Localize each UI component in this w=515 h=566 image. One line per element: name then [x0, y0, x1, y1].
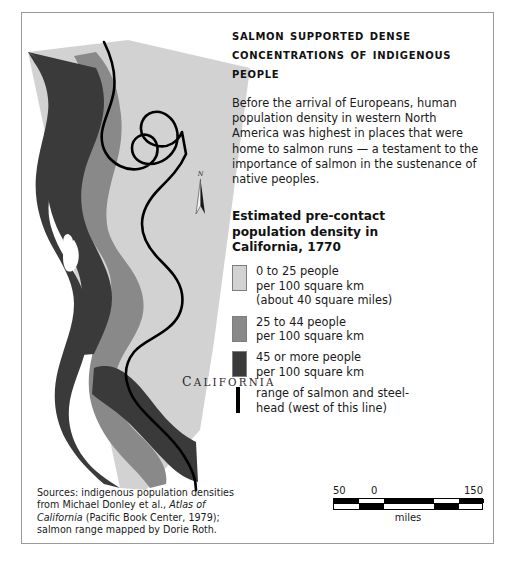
- legend-high-line1: 45 or more people: [256, 350, 361, 364]
- legend-label-salmon-range: range of salmon and steel- head (west of…: [256, 386, 409, 415]
- legend-low-line2: per 100 square km: [256, 279, 364, 293]
- legend-high-line2: per 100 square km: [256, 365, 364, 379]
- legend-label-mid: 25 to 44 people per 100 square km: [256, 315, 364, 344]
- legend-label-low: 0 to 25 people per 100 square km (about …: [256, 264, 392, 307]
- sources-note: Sources: indigenous population densities…: [37, 487, 237, 536]
- scale-seg: [384, 499, 434, 503]
- legend-item-salmon-range: range of salmon and steel- head (west of…: [232, 386, 482, 415]
- compass-north-label: N: [197, 170, 204, 178]
- legend-low-line1: 0 to 25 people: [256, 264, 339, 278]
- legend: Estimated pre-contact population density…: [232, 209, 482, 415]
- scale-bar-graphic: [333, 498, 483, 510]
- scale-label-right: 150: [464, 485, 483, 496]
- scale-numbers: 50 0 150: [333, 485, 483, 498]
- legend-label-high: 45 or more people per 100 square km: [256, 350, 364, 379]
- legend-item-high: 45 or more people per 100 square km: [232, 350, 482, 379]
- scale-unit-label: miles: [333, 512, 483, 523]
- legend-swatch-high: [232, 351, 247, 377]
- scale-seg: [459, 499, 484, 503]
- scale-bar: 50 0 150 miles: [333, 485, 483, 523]
- legend-item-low: 0 to 25 people per 100 square km (about …: [232, 264, 482, 307]
- legend-mid-line2: per 100 square km: [256, 329, 364, 343]
- scale-seg: [334, 499, 359, 503]
- scale-label-left: 50: [333, 485, 346, 496]
- page-title: Salmon supported dense concentrations of…: [232, 26, 482, 83]
- intro-paragraph: Before the arrival of Europeans, human p…: [232, 96, 482, 187]
- legend-salmon-line1: range of salmon and steel-: [256, 386, 409, 400]
- text-column: Salmon supported dense concentrations of…: [232, 26, 482, 422]
- legend-swatch-mid: [232, 316, 247, 342]
- legend-swatch-low: [232, 265, 247, 291]
- legend-swatch-salmon-line: [232, 387, 247, 413]
- scale-bar-row-bottom: [333, 504, 483, 510]
- scale-seg: [359, 504, 384, 509]
- infographic-page: N CALIFORNIA Salmon supported dense conc…: [0, 0, 515, 566]
- scale-label-mid: 0: [371, 485, 377, 496]
- legend-salmon-line2: head (west of this line): [256, 401, 387, 415]
- scale-seg: [434, 504, 459, 509]
- legend-low-line3: (about 40 square miles): [256, 293, 392, 307]
- legend-item-mid: 25 to 44 people per 100 square km: [232, 315, 482, 344]
- legend-title: Estimated pre-contact population density…: [232, 209, 432, 255]
- legend-mid-line1: 25 to 44 people: [256, 315, 346, 329]
